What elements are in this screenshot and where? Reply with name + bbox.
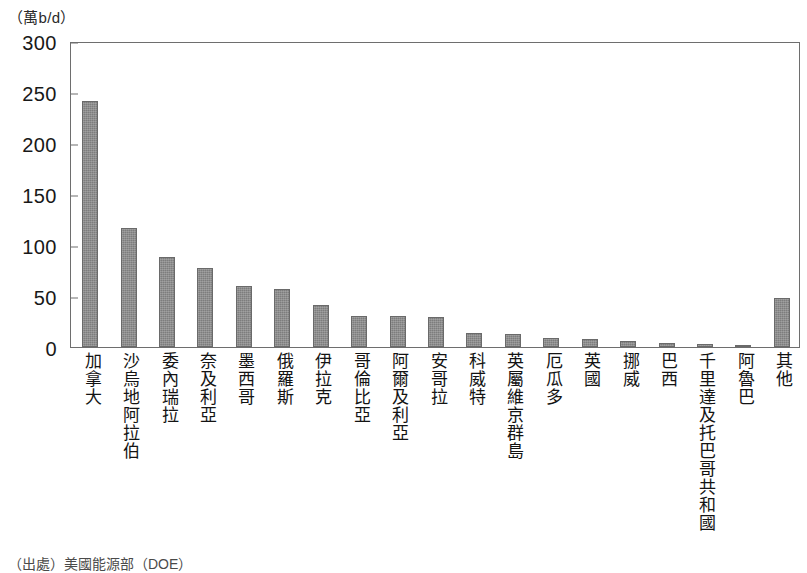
y-axis-tick-label: 150 [22, 185, 57, 208]
bar-slot [532, 43, 570, 347]
bar-slot [71, 43, 109, 347]
y-axis-tick-label: 50 [34, 287, 57, 310]
bar[interactable] [697, 344, 713, 347]
x-axis-category-label: 加拿大 [77, 352, 101, 406]
bar[interactable] [735, 345, 751, 347]
bar-slot [724, 43, 762, 347]
x-axis-category-label: 英屬維京群島 [500, 352, 524, 460]
x-axis-category-label: 其他 [769, 352, 793, 388]
y-axis-tick-label: 0 [45, 338, 57, 361]
y-axis-tick-label: 100 [22, 236, 57, 259]
x-axis-category-label: 安哥拉 [423, 352, 447, 406]
x-axis-category-label: 巴西 [654, 352, 678, 388]
x-axis-category-label: 阿爾及利亞 [385, 352, 409, 442]
y-axis-tick-label: 300 [22, 32, 57, 55]
x-axis-category-label: 科威特 [461, 352, 485, 406]
bar[interactable] [543, 338, 559, 347]
bar-slot [186, 43, 224, 347]
bar-slot [263, 43, 301, 347]
bar-slot [109, 43, 147, 347]
bar[interactable] [313, 305, 329, 347]
x-axis-category-label: 委內瑞拉 [154, 352, 178, 424]
x-axis-category-label: 哥倫比亞 [346, 352, 370, 424]
bar[interactable] [274, 289, 290, 347]
y-axis-tick-label: 200 [22, 134, 57, 157]
bar-slot [647, 43, 685, 347]
x-axis-category-label: 英國 [577, 352, 601, 388]
x-axis-category-label: 厄瓜多 [538, 352, 562, 406]
bar-slot [302, 43, 340, 347]
y-axis-tick-label: 250 [22, 83, 57, 106]
bar-slot [225, 43, 263, 347]
bar-slot [455, 43, 493, 347]
bar-slot [570, 43, 608, 347]
bar[interactable] [582, 339, 598, 347]
bar[interactable] [620, 341, 636, 347]
bar[interactable] [466, 333, 482, 347]
bar-series [71, 43, 799, 347]
bar[interactable] [236, 286, 252, 347]
bar-slot [378, 43, 416, 347]
y-axis-unit-caption: （萬b/d） [8, 6, 76, 27]
bar-slot [763, 43, 801, 347]
bar[interactable] [659, 343, 675, 347]
x-axis-category-labels: 加拿大沙烏地阿拉伯委內瑞拉奈及利亞墨西哥俄羅斯伊拉克哥倫比亞阿爾及利亞安哥拉科威… [70, 352, 800, 562]
x-axis-category-label: 俄羅斯 [269, 352, 293, 406]
bar[interactable] [505, 334, 521, 347]
x-axis-category-label: 挪威 [615, 352, 639, 388]
x-axis-category-label: 阿魯巴 [730, 352, 754, 406]
x-axis-category-label: 伊拉克 [308, 352, 332, 406]
x-axis-category-label: 千里達及托巴哥共和國 [692, 352, 716, 532]
bar[interactable] [82, 101, 98, 347]
bar-slot [609, 43, 647, 347]
plot-area: 050100150200250300 [70, 42, 800, 348]
bar-slot [494, 43, 532, 347]
x-axis-category-label: 奈及利亞 [192, 352, 216, 424]
bar-slot [340, 43, 378, 347]
bar-slot [417, 43, 455, 347]
bar[interactable] [197, 268, 213, 347]
bar[interactable] [121, 228, 137, 347]
source-note: （出處）美國能源部（DOE） [8, 553, 192, 573]
bar[interactable] [774, 298, 790, 347]
bar-slot [148, 43, 186, 347]
bar[interactable] [428, 317, 444, 347]
x-axis-category-label: 墨西哥 [231, 352, 255, 406]
x-axis-category-label: 沙烏地阿拉伯 [116, 352, 140, 460]
bar-slot [686, 43, 724, 347]
bar[interactable] [390, 316, 406, 347]
bar[interactable] [159, 257, 175, 347]
bar[interactable] [351, 316, 367, 347]
